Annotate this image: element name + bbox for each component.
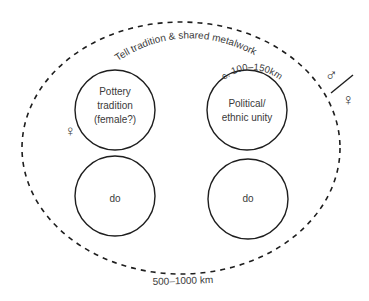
- outer-region-ellipse: [22, 22, 340, 274]
- circle-bottom-right: do: [208, 159, 288, 239]
- female-symbol-icon: ♀: [342, 91, 354, 108]
- circle-label-line: Political/: [228, 98, 265, 109]
- circle-label-line: do: [109, 193, 121, 204]
- circle-label-line: tradition: [97, 100, 133, 111]
- outer-region-label-top: Tell tradition & shared metalwork: [113, 29, 260, 63]
- circle-label-line: do: [242, 193, 254, 204]
- circle-political-unity: Political/ ethnic unity c. 100–150km: [207, 61, 287, 150]
- male-symbol-icon: ♂: [325, 66, 338, 85]
- diagram-canvas: Tell tradition & shared metalwork 500–10…: [0, 0, 369, 301]
- circle-bottom-left: do: [75, 156, 155, 236]
- circle-scale-label: c. 100–150km: [219, 61, 285, 81]
- circle-label-line: (female?): [94, 114, 136, 125]
- circle-label-line: ethnic unity: [222, 112, 273, 123]
- outer-region-label-bottom: 500–1000 km: [152, 274, 213, 287]
- female-symbol-icon: ♀: [64, 122, 75, 139]
- circle-outline: [207, 70, 287, 150]
- circle-pottery-tradition: Pottery tradition (female?): [75, 70, 155, 150]
- circle-label-line: Pottery: [99, 86, 131, 97]
